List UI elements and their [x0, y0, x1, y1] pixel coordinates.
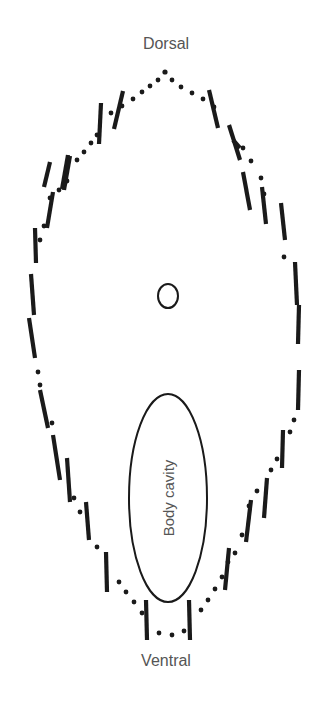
center-circle	[158, 284, 178, 308]
dotted-outline	[36, 69, 297, 637]
scale-marks	[29, 90, 299, 640]
body-cavity-label: Body cavity	[160, 460, 177, 537]
ventral-label: Ventral	[141, 652, 191, 670]
body-cross-section-diagram	[0, 0, 317, 703]
